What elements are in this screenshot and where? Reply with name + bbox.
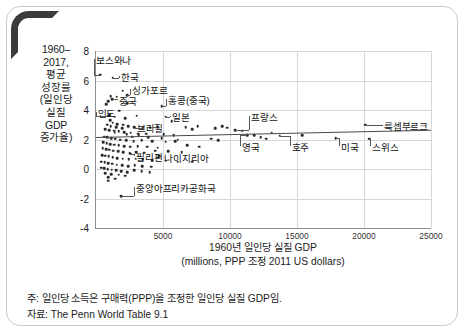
y-axis-title-line: 2017, [27,56,85,69]
y-axis-tick-label: 2 [83,134,89,145]
scatter-point [114,137,117,140]
scatter-point [111,156,114,159]
scatter-point [117,150,120,153]
scatter-point [115,169,118,172]
scatter-point [107,162,110,165]
label-leader-line [369,139,370,140]
data-point-label: 일본 [172,110,190,124]
scatter-point [107,176,110,179]
scatter-point [126,171,129,174]
scatter-point [113,143,116,146]
scatter-point [117,130,120,133]
gridline-vertical [230,51,231,228]
scatter-point [104,154,107,157]
label-leader-line [339,138,340,146]
scatter-point [109,125,112,128]
scatter-point [226,126,229,129]
label-leader-line [290,136,291,146]
scatter-point [176,138,179,141]
scatter-point [103,167,106,170]
scatter-point [100,160,103,163]
label-leader-line [96,116,108,117]
label-leader-line [130,154,134,155]
gridline-horizontal [96,51,431,52]
scatter-point [111,163,114,166]
scatter-point [126,133,129,136]
data-point-label: 프랑스 [251,110,277,124]
scatter-point [133,169,136,172]
scatter-point [101,147,104,150]
scatter-point [123,145,126,148]
scatter-point [124,117,127,120]
label-leader-line [134,154,135,157]
label-leader-line [235,130,249,131]
y-axis-tick-label: 0 [83,164,89,175]
scatter-point [122,157,125,160]
scatter-point [115,126,118,129]
scatter-point [140,139,143,142]
scatter-point [100,166,103,169]
label-leader-line [134,187,135,197]
y-axis-title-line: GDP [27,119,85,132]
scatter-point [127,125,130,128]
scatter-point [265,137,268,140]
scatter-point [164,140,167,143]
scatter-point [105,103,108,106]
label-leader-line [382,125,383,126]
scatter-point [186,144,189,147]
y-axis-tick-label: 6 [83,75,89,86]
scatter-point [214,127,217,130]
y-axis-tick-label: -2 [80,193,89,204]
x-axis-tick-label: 15000 [285,231,308,241]
data-point-label: 인도 [98,106,116,120]
label-leader-line [113,78,120,79]
scatter-point [108,129,111,132]
y-axis-title-line: 실질 [27,106,85,119]
x-axis-tick-label: 10000 [218,231,241,241]
y-axis-title-line: 1960– [27,43,85,56]
scatter-point [174,140,177,143]
label-leader-line [336,138,339,139]
data-point-label: 홍콩(중국) [168,93,209,107]
scatter-point [125,139,128,142]
scatter-point [301,134,304,137]
data-point-label: 룩셉부르크 [384,119,428,133]
scatter-point [101,154,104,157]
scatter-point [107,180,110,183]
scatter-point [110,173,113,176]
label-leader-line [162,106,167,107]
scatter-point [108,149,111,152]
label-leader-line [240,135,247,136]
x-axis-title: 1960년 일인당 실질 GDP(millions, PPP 조정 2011 U… [95,241,431,268]
scatter-point [105,142,108,145]
scatter-point [115,163,118,166]
y-axis-tick-label: -4 [80,223,89,234]
scatter-point [112,149,115,152]
scatter-point [121,127,124,130]
scatter-point [116,157,119,160]
data-point-label: 스위스 [372,140,398,154]
scatter-point [118,109,121,112]
label-leader-line [117,99,118,100]
scatter-point [105,148,108,151]
scatter-point [127,165,130,168]
scatter-point [115,95,118,98]
data-point-label: 호주 [292,140,310,154]
scatter-point [117,144,120,147]
figure-notes: 주: 일인당 소득은 구매력(PPP)을 조정한 일인당 실질 GDP임. 자료… [27,291,447,323]
y-axis-title: 1960–2017,평균성장률(일인당실질GDP증가율) [27,43,85,144]
y-axis-title-line: 성장률 [27,81,85,94]
scatter-point [107,155,110,158]
label-leader-line [112,99,117,100]
scatter-point [141,165,144,168]
scatter-point [122,123,125,126]
scatter-point [136,115,139,118]
y-axis-title-line: (일인당 [27,93,85,106]
scatter-point [130,132,133,135]
gridline-vertical [163,51,164,228]
data-point-label: 중국 [119,94,137,108]
label-leader-line [94,75,101,76]
data-point-label: 나이지리아 [164,151,208,165]
scatter-point [191,128,194,131]
scatter-point [106,168,109,171]
